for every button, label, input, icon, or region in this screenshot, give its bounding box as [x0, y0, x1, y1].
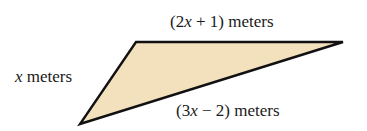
label-text: meters [23, 67, 73, 86]
variable-x: x [190, 101, 198, 120]
side-label-top: (2x + 1) meters [170, 13, 274, 30]
side-label-left: x meters [15, 68, 72, 85]
label-text: + 1) meters [192, 12, 274, 31]
label-text: − 2) meters [198, 101, 280, 120]
label-text: (2 [170, 12, 184, 31]
side-label-bottom: (3x − 2) meters [176, 102, 280, 119]
variable-x: x [15, 67, 23, 86]
variable-x: x [184, 12, 192, 31]
label-text: (3 [176, 101, 190, 120]
